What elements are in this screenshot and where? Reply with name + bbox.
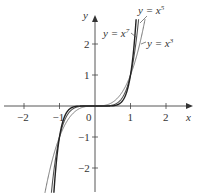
x-axis-arrow-icon: [186, 103, 193, 109]
svg-text:y = x5: y = x5: [137, 4, 165, 16]
annotation-x7: y = x7: [102, 27, 136, 39]
y-tick-label: −2: [78, 162, 90, 174]
x-tick-label: 2: [163, 111, 169, 123]
y-axis: [92, 15, 98, 192]
y-tick-label: 2: [84, 38, 90, 50]
y-axis-arrow-icon: [92, 15, 98, 22]
annotation-x5: y = x5: [137, 4, 165, 23]
y-axis-label: y: [82, 9, 88, 21]
svg-text:y = x7: y = x7: [102, 27, 130, 39]
svg-text:y = x3: y = x3: [146, 37, 174, 49]
annotation-x3: y = x3: [141, 37, 174, 49]
x-axis-label: x: [185, 111, 191, 123]
x-tick-label: 0: [86, 111, 92, 123]
chart: −2−1012 −2−112 x y y = x5 y = x7 y = x3: [0, 0, 198, 194]
x-tick-label: 1: [128, 111, 134, 123]
x-tick-label: −2: [17, 111, 29, 123]
y-tick-label: 1: [84, 69, 90, 81]
y-tick-label: −1: [78, 131, 90, 143]
